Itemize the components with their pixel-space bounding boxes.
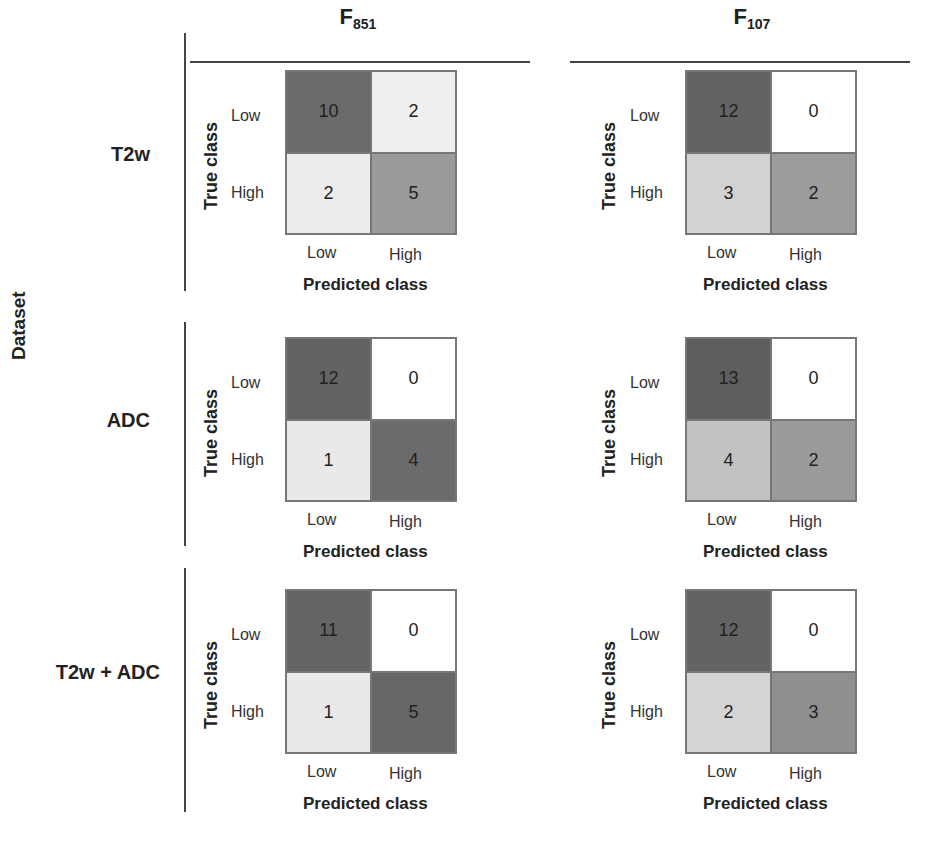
matrix-cell: 11 bbox=[286, 590, 371, 672]
x-axis-label: Predicted class bbox=[703, 542, 828, 562]
matrix-cell: 4 bbox=[686, 420, 771, 502]
y-axis-label: True class bbox=[201, 641, 222, 729]
matrix-cell: 2 bbox=[686, 672, 771, 754]
row-label-low: Low bbox=[231, 107, 260, 125]
row-label-low: Low bbox=[630, 626, 659, 644]
matrix-cell: 2 bbox=[771, 153, 856, 235]
confusion-matrix-t2w-adc-f851: True class Low High 11 0 1 5 Low High Pr… bbox=[185, 589, 485, 834]
x-axis-label: Predicted class bbox=[303, 794, 428, 814]
matrix-grid: 13 0 4 2 bbox=[685, 337, 857, 502]
col-label-high: High bbox=[389, 765, 422, 783]
y-axis-label: True class bbox=[599, 389, 620, 477]
row-label-low: Low bbox=[231, 374, 260, 392]
matrix-cell: 12 bbox=[686, 590, 771, 672]
matrix-cell: 12 bbox=[686, 71, 771, 153]
matrix-cell: 2 bbox=[286, 153, 371, 235]
matrix-cell: 12 bbox=[286, 338, 371, 420]
confusion-matrix-t2w-f851: True class Low High 10 2 2 5 Low High Pr… bbox=[185, 70, 485, 315]
x-axis-label: Predicted class bbox=[703, 794, 828, 814]
row-title-t2w: T2w bbox=[0, 143, 150, 166]
y-axis-label: True class bbox=[599, 641, 620, 729]
matrix-grid: 11 0 1 5 bbox=[285, 589, 457, 754]
row-title-adc: ADC bbox=[0, 409, 150, 432]
x-axis-label: Predicted class bbox=[303, 542, 428, 562]
col-label-high: High bbox=[789, 513, 822, 531]
col-label-low: Low bbox=[307, 763, 336, 781]
row-label-high: High bbox=[231, 184, 264, 202]
row-title-t2w-adc: T2w + ADC bbox=[10, 661, 160, 684]
matrix-cell: 0 bbox=[771, 338, 856, 420]
col-label-high: High bbox=[789, 765, 822, 783]
matrix-cell: 1 bbox=[286, 420, 371, 502]
row-label-high: High bbox=[630, 184, 663, 202]
y-axis-label: True class bbox=[201, 389, 222, 477]
matrix-cell: 0 bbox=[371, 590, 456, 672]
matrix-cell: 0 bbox=[771, 590, 856, 672]
row-label-low: Low bbox=[630, 374, 659, 392]
matrix-cell: 1 bbox=[286, 672, 371, 754]
row-label-low: Low bbox=[630, 107, 659, 125]
matrix-cell: 5 bbox=[371, 672, 456, 754]
row-label-high: High bbox=[231, 451, 264, 469]
row-label-high: High bbox=[630, 451, 663, 469]
x-axis-label: Predicted class bbox=[303, 275, 428, 295]
matrix-grid: 12 0 2 3 bbox=[685, 589, 857, 754]
matrix-cell: 3 bbox=[771, 672, 856, 754]
col-label-low: Low bbox=[307, 244, 336, 262]
col-label-low: Low bbox=[707, 763, 736, 781]
matrix-cell: 2 bbox=[771, 420, 856, 502]
matrix-grid: 12 0 3 2 bbox=[685, 70, 857, 235]
dataset-axis-label: Dataset bbox=[8, 291, 30, 360]
col-label-high: High bbox=[389, 246, 422, 264]
matrix-grid: 10 2 2 5 bbox=[285, 70, 457, 235]
matrix-cell: 13 bbox=[686, 338, 771, 420]
x-axis-label: Predicted class bbox=[703, 275, 828, 295]
matrix-grid: 12 0 1 4 bbox=[285, 337, 457, 502]
row-label-low: Low bbox=[231, 626, 260, 644]
column-header-underline bbox=[570, 61, 910, 63]
matrix-cell: 5 bbox=[371, 153, 456, 235]
col-label-high: High bbox=[389, 513, 422, 531]
y-axis-label: True class bbox=[201, 122, 222, 210]
confusion-matrix-t2w-f107: True class Low High 12 0 3 2 Low High Pr… bbox=[585, 70, 885, 315]
confusion-matrix-t2w-adc-f107: True class Low High 12 0 2 3 Low High Pr… bbox=[585, 589, 885, 834]
matrix-cell: 0 bbox=[771, 71, 856, 153]
col-label-low: Low bbox=[707, 244, 736, 262]
matrix-cell: 4 bbox=[371, 420, 456, 502]
matrix-cell: 2 bbox=[371, 71, 456, 153]
col-label-low: Low bbox=[707, 511, 736, 529]
row-label-high: High bbox=[231, 703, 264, 721]
matrix-cell: 3 bbox=[686, 153, 771, 235]
column-header-underline bbox=[190, 61, 530, 63]
matrix-cell: 0 bbox=[371, 338, 456, 420]
y-axis-label: True class bbox=[599, 122, 620, 210]
column-header-f107: F107 bbox=[652, 4, 852, 32]
confusion-matrix-adc-f107: True class Low High 13 0 4 2 Low High Pr… bbox=[585, 337, 885, 582]
row-label-high: High bbox=[630, 703, 663, 721]
confusion-matrix-adc-f851: True class Low High 12 0 1 4 Low High Pr… bbox=[185, 337, 485, 582]
col-label-high: High bbox=[789, 246, 822, 264]
col-label-low: Low bbox=[307, 511, 336, 529]
matrix-cell: 10 bbox=[286, 71, 371, 153]
column-header-f851: F851 bbox=[258, 4, 458, 32]
